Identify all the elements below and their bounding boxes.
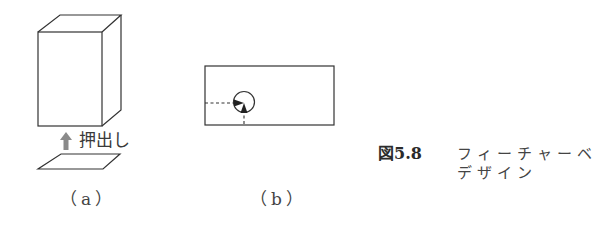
box-front-face — [38, 32, 102, 126]
caption-text-line1: フィーチャーベ — [457, 145, 595, 163]
extruded-box-icon — [38, 15, 121, 126]
up-arrow-icon — [60, 132, 72, 150]
parallelogram-sketch-icon — [38, 154, 120, 169]
plate-rectangle-icon — [205, 66, 334, 125]
dimension-arrowheads-icon — [234, 100, 248, 114]
panel-a-label: （a） — [60, 188, 116, 210]
box-side-face — [102, 15, 121, 126]
dashed-dimension-lines-icon — [205, 103, 244, 125]
box-top-face — [38, 15, 121, 32]
vertical-arrowhead — [241, 103, 248, 113]
horizontal-arrowhead — [234, 100, 244, 107]
panel-b-label: （b） — [250, 188, 307, 210]
extrude-label: 押出し — [79, 130, 130, 150]
figure-number: 図5.8 — [378, 145, 422, 163]
caption-text-line2: デザイン — [457, 164, 537, 182]
